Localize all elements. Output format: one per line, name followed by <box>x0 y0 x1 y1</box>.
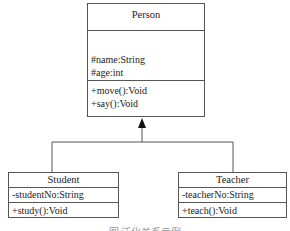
class-student: Student -studentNo:String +study():Void <box>8 172 119 218</box>
class-student-methods: +study():Void <box>9 202 118 218</box>
method: +study():Void <box>12 203 115 218</box>
class-person-name: Person <box>88 4 204 30</box>
class-teacher: Teacher -teacherNo:String +teach():Void <box>178 172 287 218</box>
class-person: Person #name:String #age:int +move():Voi… <box>87 3 205 117</box>
attribute: -teacherNo:String <box>182 188 283 202</box>
attribute: #name:String <box>91 53 201 66</box>
method: +say():Void <box>91 97 201 110</box>
method: +move():Void <box>91 84 201 97</box>
class-teacher-name: Teacher <box>179 173 286 187</box>
figure-caption: 图 泛化关系示例 <box>0 224 290 231</box>
class-teacher-attributes: -teacherNo:String <box>179 187 286 202</box>
class-student-name: Student <box>9 173 118 187</box>
method: +teach():Void <box>182 203 283 218</box>
inheritance-arrowhead-icon <box>138 118 146 128</box>
class-teacher-methods: +teach():Void <box>179 202 286 218</box>
class-person-attributes: #name:String #age:int <box>88 30 204 80</box>
class-student-attributes: -studentNo:String <box>9 187 118 202</box>
attribute: #age:int <box>91 66 201 79</box>
attribute: -studentNo:String <box>12 188 115 202</box>
class-person-methods: +move():Void +say():Void <box>88 80 204 110</box>
